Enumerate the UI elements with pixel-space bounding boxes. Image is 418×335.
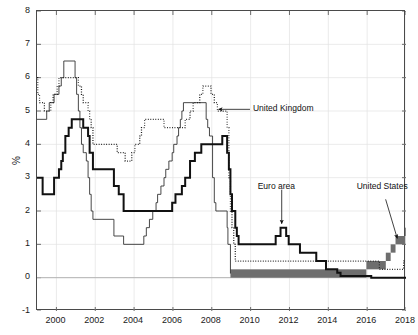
x-axis-tick-label: 2002	[74, 316, 114, 325]
annotation-arrows	[219, 109, 398, 238]
x-axis-tick-label: 2004	[113, 316, 153, 325]
y-axis-tick-label: 2	[6, 206, 30, 215]
y-axis-tick-label: 5	[6, 106, 30, 115]
y-axis-tick-label: 1	[6, 239, 30, 248]
annotation-united-states: United States	[357, 181, 408, 191]
x-axis-tick-label: 2018	[385, 316, 418, 325]
x-axis-tick-label: 2006	[152, 316, 192, 325]
y-axis-tick-label: 7	[6, 39, 30, 48]
y-axis-label: %	[11, 146, 22, 176]
x-axis-tick-label: 2012	[268, 316, 308, 325]
y-axis-tick-label: -1	[6, 306, 30, 315]
plot-area	[36, 10, 405, 310]
chart-svg	[37, 11, 406, 311]
series-united-kingdom-line	[37, 78, 406, 270]
x-axis-tick-label: 2016	[346, 316, 386, 325]
x-axis-tick-label: 2014	[307, 316, 347, 325]
y-axis-tick-label: 6	[6, 72, 30, 81]
x-axis-tick-label: 2008	[191, 316, 231, 325]
annotation-united-kingdom: United Kingdom	[253, 103, 313, 113]
x-axis-tick-label: 2010	[230, 316, 270, 325]
y-axis-tick-label: 0	[6, 272, 30, 281]
y-axis-tick-label: 3	[6, 172, 30, 181]
policy-rate-chart-figure: % -1012345678 20002002200420062008201020…	[0, 0, 418, 335]
y-axis-tick-label: 8	[6, 6, 30, 15]
x-axis-tick-label: 2000	[35, 316, 75, 325]
series-united-states-line	[37, 61, 230, 274]
y-axis-tick-label: 4	[6, 139, 30, 148]
series-united-states-band	[230, 228, 406, 278]
annotation-euro-area: Euro area	[258, 181, 295, 191]
